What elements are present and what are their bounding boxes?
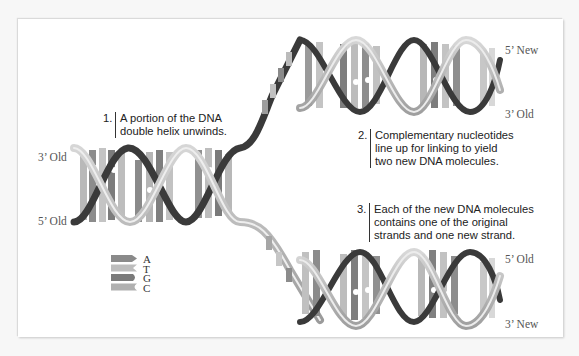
step-3-text: Each of the new DNA molecules contains o… — [369, 203, 534, 242]
step-3-line-2: contains one of the original — [374, 216, 534, 229]
legend — [111, 255, 137, 291]
step-1-text: A portion of the DNA double helix unwind… — [115, 112, 227, 138]
step-3-line-3: strands and one new strand. — [374, 229, 534, 242]
step-3-line-1: Each of the new DNA molecules — [374, 203, 534, 216]
step-1-line-1: A portion of the DNA — [120, 112, 227, 125]
label-left-5-old: 5’ Old — [38, 215, 67, 227]
label-left-3-old: 3’ Old — [38, 151, 67, 163]
step-3-number: 3. — [357, 203, 366, 216]
step-1-number: 1. — [103, 112, 112, 125]
step-2-line-2: line up for linking to yield — [375, 142, 514, 155]
daughter-helix-upper — [300, 40, 500, 112]
legend-swatch-g — [111, 274, 135, 281]
label-lower-3-new: 3’ New — [505, 318, 538, 330]
step-1-line-2: double helix unwinds. — [120, 125, 227, 138]
daughter-helix-lower — [300, 250, 500, 326]
step-2-text: Complementary nucleotides line up for li… — [370, 129, 514, 168]
legend-letter-c: C — [143, 283, 150, 293]
step-2-line-3: two new DNA molecules. — [375, 155, 514, 168]
label-upper-5-new: 5’ New — [505, 44, 538, 56]
dna-replication-illustration — [0, 0, 579, 356]
parental-helix — [74, 40, 320, 320]
legend-swatch-c — [111, 284, 137, 291]
legend-swatch-a — [111, 255, 137, 262]
step-2-line-1: Complementary nucleotides — [375, 129, 514, 142]
legend-swatch-t — [111, 265, 137, 272]
label-lower-5-old: 5’ Old — [505, 253, 534, 265]
step-2-number: 2. — [358, 129, 367, 142]
label-upper-3-old: 3’ Old — [505, 108, 534, 120]
